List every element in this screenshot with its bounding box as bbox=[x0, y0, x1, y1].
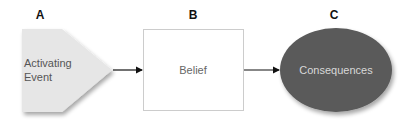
node-a-text-line1: Activating bbox=[24, 57, 72, 69]
node-b-text: Belief bbox=[179, 64, 207, 76]
node-c-text: Consequences bbox=[299, 64, 373, 76]
node-a-label: A bbox=[36, 8, 45, 22]
node-a-text-line2: Event bbox=[24, 71, 52, 83]
node-b-label: B bbox=[189, 8, 198, 22]
node-c-label: C bbox=[330, 8, 339, 22]
abc-diagram: A Activating Event B Belief C Consequenc… bbox=[0, 0, 415, 122]
